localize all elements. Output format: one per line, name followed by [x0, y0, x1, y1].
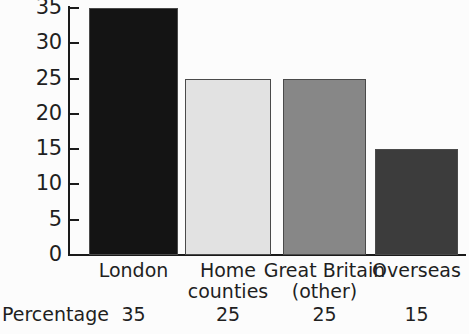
bar — [283, 79, 366, 255]
bar-chart-figure: 05101520253035 Percentage LondonHomecoun… — [0, 0, 469, 334]
value-label: 15 — [377, 304, 457, 325]
plot-area: 05101520253035 — [0, 0, 469, 258]
category-label-line: Home — [200, 259, 256, 281]
category-label-line: (other) — [255, 281, 395, 302]
bar-series — [0, 0, 469, 255]
category-value-table: Percentage LondonHomecountiesGreat Brita… — [0, 258, 469, 334]
bar — [375, 149, 458, 255]
value-label: 25 — [188, 304, 268, 325]
bar — [89, 8, 178, 255]
category-label-line: Overseas — [372, 259, 461, 281]
value-label: 35 — [94, 304, 174, 325]
value-label: 25 — [285, 304, 365, 325]
bar — [185, 79, 271, 255]
category-label: Overseas — [347, 260, 469, 281]
